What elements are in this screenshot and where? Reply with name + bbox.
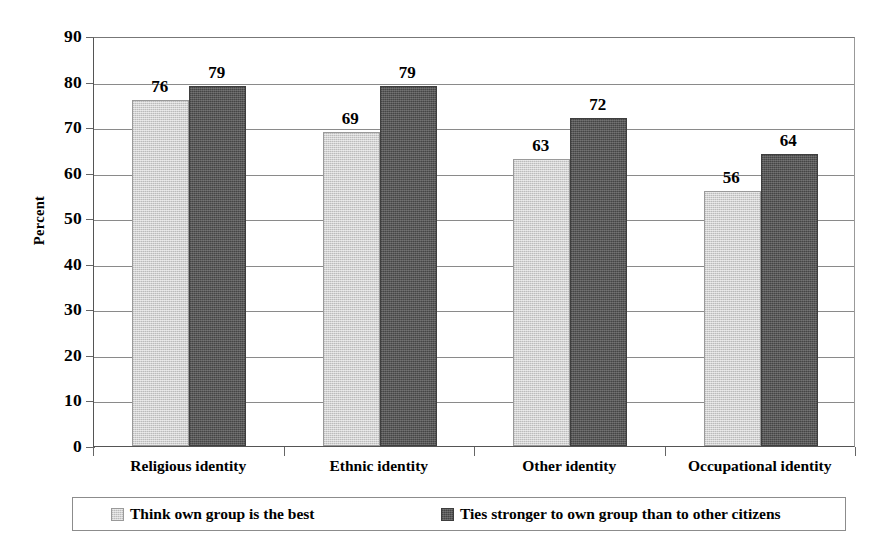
- y-tick-label: 10: [36, 392, 82, 410]
- bar-value-label: 63: [512, 137, 569, 154]
- chart-canvas: Percent 0102030405060708090 767969796372…: [0, 0, 882, 558]
- bar-value-label: 69: [322, 110, 379, 127]
- legend-entry: Think own group is the best: [111, 498, 314, 530]
- bar-value-label: 79: [188, 64, 245, 81]
- legend-entry: Ties stronger to own group than to other…: [441, 498, 781, 530]
- bar: [513, 159, 570, 446]
- bar: [132, 100, 189, 446]
- bar-value-label: 56: [703, 169, 760, 186]
- legend: Think own group is the bestTies stronger…: [72, 497, 846, 531]
- bar-value-label: 79: [379, 64, 436, 81]
- y-tick-label: 20: [36, 347, 82, 365]
- y-tick-label: 60: [36, 165, 82, 183]
- bar: [380, 86, 437, 446]
- x-tick-mark: [855, 447, 856, 456]
- light-gray-swatch: [111, 508, 124, 521]
- bar: [570, 118, 627, 446]
- x-category-label: Occupational identity: [665, 457, 856, 474]
- x-tick-mark: [284, 447, 285, 456]
- y-tick-label: 40: [36, 256, 82, 274]
- y-tick-label: 50: [36, 210, 82, 228]
- x-tick-mark: [474, 447, 475, 456]
- bar: [704, 191, 761, 446]
- x-category-label: Religious identity: [93, 457, 284, 474]
- bar: [761, 154, 818, 446]
- legend-label: Think own group is the best: [130, 506, 314, 522]
- x-tick-mark: [665, 447, 666, 456]
- bar-value-label: 64: [760, 132, 817, 149]
- plot-area: [93, 37, 855, 447]
- bar-value-label: 76: [131, 78, 188, 95]
- y-tick-label: 90: [36, 28, 82, 46]
- x-category-label: Ethnic identity: [284, 457, 475, 474]
- x-category-label: Other identity: [474, 457, 665, 474]
- y-tick-label: 70: [36, 119, 82, 137]
- y-tick-label: 30: [36, 301, 82, 319]
- y-tick-label: 0: [36, 438, 82, 456]
- gridline: [94, 84, 854, 85]
- x-tick-mark: [93, 447, 94, 456]
- legend-label: Ties stronger to own group than to other…: [460, 506, 781, 522]
- bar-value-label: 72: [569, 96, 626, 113]
- bar: [189, 86, 246, 446]
- bar: [323, 132, 380, 446]
- y-tick-label: 80: [36, 74, 82, 92]
- dark-gray-swatch: [441, 508, 454, 521]
